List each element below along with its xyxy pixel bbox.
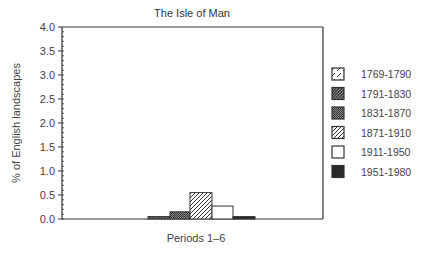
- plot-area: [62, 27, 323, 219]
- legend-label: 1831-1870: [361, 107, 411, 119]
- legend-label: 1871-1910: [361, 127, 411, 139]
- legend-label: 1911-1950: [361, 146, 411, 158]
- bar-1831-1870: [170, 212, 190, 219]
- y-axis-label: % of English landscapes: [10, 63, 22, 183]
- legend-label: 1791-1830: [361, 88, 411, 100]
- y-tick-label: 3.5: [40, 45, 55, 57]
- x-axis-label: Periods 1–6: [167, 232, 226, 244]
- y-tick-label: 0.0: [40, 213, 55, 225]
- legend-swatch-1951-1980: [332, 166, 344, 178]
- bar-1951-1980: [233, 217, 255, 219]
- bar-1911-1950: [212, 206, 233, 219]
- legend-swatch-1871-1910: [332, 127, 344, 139]
- bar-chart: The Isle of Man 0.00.51.01.52.02.53.03.5…: [0, 0, 427, 253]
- legend: 1769-17901791-18301831-18701871-19101911…: [332, 68, 411, 178]
- legend-swatch-1831-1870: [332, 107, 344, 119]
- y-tick-label: 1.5: [40, 141, 55, 153]
- legend-swatch-1769-1790: [332, 68, 344, 80]
- bar-1791-1830: [148, 217, 170, 219]
- y-tick-label: 1.0: [40, 165, 55, 177]
- y-axis-ticks: 0.00.51.01.52.02.53.03.54.0: [40, 21, 64, 225]
- legend-label: 1951-1980: [361, 166, 411, 178]
- y-tick-label: 3.0: [40, 69, 55, 81]
- legend-label: 1769-1790: [361, 68, 411, 80]
- legend-swatch-1791-1830: [332, 88, 344, 100]
- bar-1871-1910: [190, 193, 212, 219]
- legend-swatch-1911-1950: [332, 146, 344, 158]
- y-tick-label: 0.5: [40, 189, 55, 201]
- y-tick-label: 2.5: [40, 93, 55, 105]
- y-tick-label: 2.0: [40, 117, 55, 129]
- y-tick-label: 4.0: [40, 21, 55, 33]
- bars: [148, 193, 255, 219]
- chart-title: The Isle of Man: [154, 7, 230, 19]
